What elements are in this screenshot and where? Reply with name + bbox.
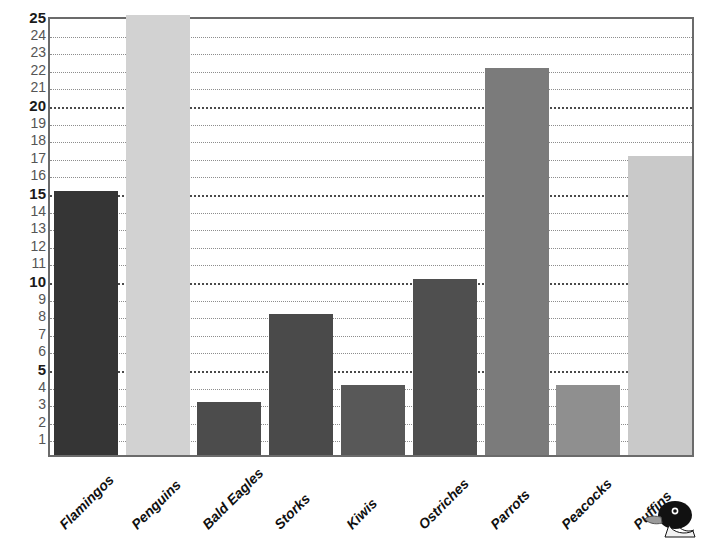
y-axis-tick-label: 8: [2, 309, 46, 323]
bar-chart: 2524232221201918171615141312111098765432…: [0, 0, 713, 543]
x-axis-tick-label: Kiwis: [343, 495, 380, 532]
y-axis: 2524232221201918171615141312111098765432…: [0, 17, 46, 457]
x-axis: FlamingosPenguinsBald EaglesStorksKiwisO…: [48, 459, 694, 543]
bar: [485, 68, 549, 455]
y-axis-tick-label: 6: [2, 344, 46, 358]
y-axis-tick-label: 15: [2, 186, 46, 201]
x-axis-tick-label: Ostriches: [415, 475, 472, 532]
bar: [126, 15, 190, 455]
x-axis-tick-label: Penguins: [128, 476, 184, 532]
y-axis-tick-label: 14: [2, 204, 46, 218]
y-axis-tick-label: 20: [2, 98, 46, 113]
y-axis-tick-label: 5: [2, 362, 46, 377]
y-axis-tick-label: 25: [2, 10, 46, 25]
y-axis-tick-label: 17: [2, 151, 46, 165]
y-axis-tick-label: 19: [2, 116, 46, 130]
y-axis-tick-label: 18: [2, 133, 46, 147]
x-axis-tick-label: Bald Eagles: [199, 465, 266, 532]
bar: [197, 402, 261, 455]
x-axis-tick-label: Peacocks: [558, 475, 615, 532]
bar: [413, 279, 477, 455]
y-axis-tick-label: 23: [2, 45, 46, 59]
plot-area: [48, 17, 694, 457]
y-axis-tick-label: 22: [2, 63, 46, 77]
x-axis-tick-label: Parrots: [487, 486, 533, 532]
y-axis-tick-label: 16: [2, 168, 46, 182]
bar: [54, 191, 118, 455]
x-axis-tick-label: Storks: [271, 490, 313, 532]
bar: [556, 385, 620, 455]
y-axis-tick-label: 12: [2, 239, 46, 253]
y-axis-tick-label: 13: [2, 221, 46, 235]
y-axis-tick-label: 4: [2, 380, 46, 394]
puffin-head-icon: [639, 495, 701, 539]
y-axis-tick-label: 2: [2, 415, 46, 429]
y-axis-tick-label: 24: [2, 28, 46, 42]
x-axis-tick-label: Flamingos: [56, 471, 117, 532]
y-axis-tick-label: 3: [2, 397, 46, 411]
y-axis-tick-label: 21: [2, 80, 46, 94]
bar: [269, 314, 333, 455]
bar: [628, 156, 692, 455]
y-axis-tick-label: 7: [2, 327, 46, 341]
y-axis-tick-label: 1: [2, 432, 46, 446]
y-axis-tick-label: 9: [2, 292, 46, 306]
bar: [341, 385, 405, 455]
y-axis-tick-label: 10: [2, 274, 46, 289]
y-axis-tick-label: 11: [2, 256, 46, 270]
